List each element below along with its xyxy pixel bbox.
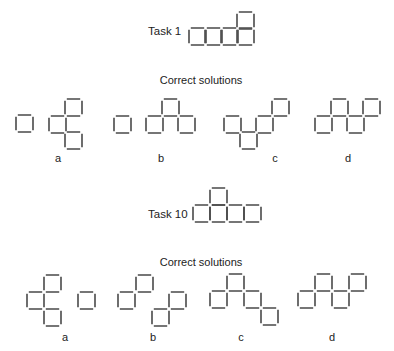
matchstick-square <box>315 274 332 291</box>
matchstick-square <box>78 292 95 309</box>
matchstick-square <box>162 99 179 116</box>
matchstick-square <box>65 99 82 116</box>
matchstick-square <box>210 205 227 222</box>
task-10-solution-a <box>27 275 95 326</box>
matchstick-square <box>315 116 332 133</box>
matchstick-square <box>227 274 244 291</box>
matchstick-square <box>349 274 366 291</box>
matchstick-square <box>178 116 195 133</box>
matchstick-square <box>152 309 169 326</box>
task-1-solution-b <box>114 99 195 133</box>
matchstick-square <box>244 205 261 222</box>
matchstick-square <box>136 275 153 292</box>
task-1-figure <box>189 12 254 45</box>
matchstick-square <box>27 292 44 309</box>
matchstick-square <box>44 275 61 292</box>
matchstick-square <box>237 12 254 29</box>
task-10-solution-b <box>118 275 186 326</box>
matchstick-square <box>16 115 33 132</box>
matchstick-square <box>332 291 349 308</box>
matchstick-square <box>189 28 206 45</box>
matchstick-square <box>221 28 238 45</box>
matchstick-square <box>118 292 135 309</box>
matchstick-square <box>298 291 315 308</box>
task-10-figure <box>193 188 261 222</box>
matchstick-square <box>169 292 186 309</box>
matchstick-square <box>244 291 261 308</box>
matchstick-square <box>224 116 241 133</box>
matchstick-square <box>227 205 244 222</box>
task-10-solution-c <box>210 274 278 325</box>
matchstick-square <box>261 308 278 325</box>
matchstick-square <box>237 28 254 45</box>
matchstick-square <box>205 28 222 45</box>
matchstick-square <box>347 116 364 133</box>
matchstick-square <box>256 116 273 133</box>
matchstick-square <box>49 116 66 133</box>
matchstick-square <box>331 99 348 116</box>
matchstick-square <box>44 309 61 326</box>
task-1-solution-a <box>16 99 82 149</box>
matchstick-square <box>114 116 131 133</box>
matchstick-square <box>193 205 210 222</box>
matchstick-square <box>272 99 289 116</box>
matchstick-square <box>65 132 82 149</box>
matchstick-figures <box>0 0 394 351</box>
matchstick-square <box>240 132 257 149</box>
matchstick-square <box>210 291 227 308</box>
task-10-solution-d <box>298 274 366 308</box>
task-1-solution-c <box>224 99 289 149</box>
matchstick-square <box>146 116 163 133</box>
matchstick-square <box>363 99 380 116</box>
matchstick-square <box>210 188 227 205</box>
task-1-solution-d <box>315 99 380 133</box>
